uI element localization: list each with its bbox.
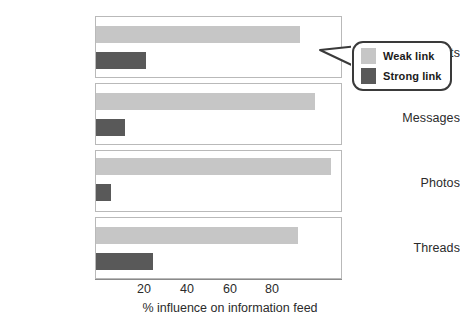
panel-threads xyxy=(95,217,342,279)
x-axis-line xyxy=(95,279,342,280)
legend-swatch-weak-link xyxy=(361,48,376,64)
bar-threads-weak-link xyxy=(96,227,298,244)
x-axis-title: % influence on information feed xyxy=(0,301,460,315)
category-label-photos: Photos xyxy=(374,176,460,190)
legend-label-weak-link: Weak link xyxy=(383,50,434,62)
x-tick-label-20: 20 xyxy=(137,282,151,296)
x-tick-label-80: 80 xyxy=(265,282,279,296)
category-label-messages: Messages xyxy=(374,111,460,125)
panel-messages xyxy=(95,83,342,145)
bar-threads-strong-link xyxy=(96,253,153,270)
bar-messages-strong-link xyxy=(96,119,125,136)
bar-comments-strong-link xyxy=(96,52,146,69)
category-label-threads: Threads xyxy=(374,241,460,255)
legend: Weak link Strong link xyxy=(352,41,452,91)
bar-messages-weak-link xyxy=(96,93,315,110)
legend-item-weak-link: Weak link xyxy=(361,48,434,64)
x-tick-label-60: 60 xyxy=(223,282,237,296)
legend-item-strong-link: Strong link xyxy=(361,68,442,84)
legend-label-strong-link: Strong link xyxy=(383,70,442,82)
legend-swatch-strong-link xyxy=(361,68,376,84)
bar-comments-weak-link xyxy=(96,26,300,43)
chart-figure: Comments Messages Photos Threads 20 40 6… xyxy=(0,0,460,331)
bar-photos-weak-link xyxy=(96,158,331,175)
x-tick-label-40: 40 xyxy=(180,282,194,296)
bar-photos-strong-link xyxy=(96,184,111,201)
panel-comments xyxy=(95,16,342,78)
panel-photos xyxy=(95,150,342,212)
